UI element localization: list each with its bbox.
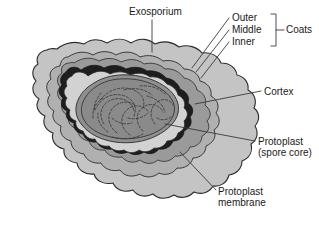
label-coats-group: Coats (286, 24, 312, 36)
coats-bracket (271, 14, 284, 46)
label-outer-coat: Outer (232, 12, 257, 24)
label-inner-coat: Inner (232, 36, 255, 48)
label-middle-coat: Middle (232, 24, 261, 36)
label-exosporium: Exosporium (129, 6, 182, 18)
label-protoplast-membrane-line2: membrane (218, 197, 266, 209)
endospore-diagram: Exosporium Outer Middle Inner Coats Cort… (0, 0, 319, 227)
label-protoplast-subtitle: (spore core) (258, 147, 312, 159)
label-protoplast-membrane-line1: Protoplast (218, 186, 263, 198)
spore-illustration (0, 0, 319, 227)
label-cortex: Cortex (264, 86, 293, 98)
label-protoplast: Protoplast (258, 136, 303, 148)
